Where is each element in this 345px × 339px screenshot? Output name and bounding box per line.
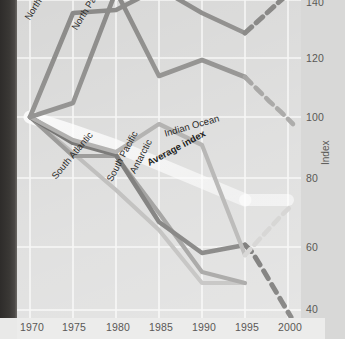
y-tick-140: 140 bbox=[306, 0, 324, 8]
x-tick-1980: 1980 bbox=[106, 321, 130, 333]
y-tick-60: 60 bbox=[306, 241, 318, 253]
y-tick-80: 80 bbox=[306, 172, 318, 184]
x-tick-1970: 1970 bbox=[20, 321, 44, 333]
x-tick-1975: 1975 bbox=[62, 321, 86, 333]
x-tick-1990: 1990 bbox=[192, 321, 216, 333]
y-axis-strip bbox=[301, 0, 345, 339]
y-tick-120: 120 bbox=[306, 52, 324, 64]
x-tick-1985: 1985 bbox=[149, 321, 173, 333]
y-tick-40: 40 bbox=[306, 303, 318, 315]
x-tick-2000: 2000 bbox=[278, 321, 302, 333]
series-south-atlantic bbox=[30, 117, 245, 283]
chart-screenshot: North Atlantic North Pacific Indian Ocea… bbox=[0, 0, 345, 339]
x-tick-1995: 1995 bbox=[235, 321, 259, 333]
y-tick-100: 100 bbox=[306, 111, 324, 123]
x-axis-left-filler bbox=[0, 318, 17, 339]
y-axis-title: Index bbox=[320, 141, 331, 165]
